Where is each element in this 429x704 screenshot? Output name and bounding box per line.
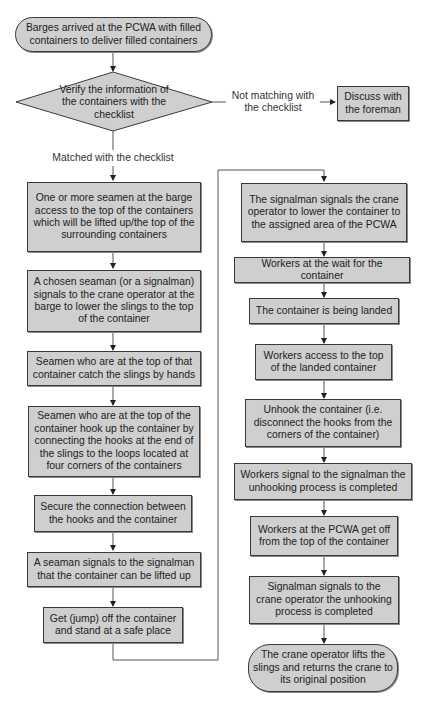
- branch-yes-label: Matched with the checklist: [40, 152, 186, 164]
- decision-text: Verify the information of the containers…: [55, 84, 173, 121]
- left-step-4: Seamen who are at the top of the contain…: [28, 406, 200, 477]
- left-step-6: A seaman signals to the signalman that t…: [27, 552, 201, 587]
- foreman-text: Discuss with the foreman: [342, 91, 404, 116]
- end-text: The crane operator lifts the slings and …: [253, 649, 393, 686]
- left-step-7: Get (jump) off the container and stand a…: [43, 607, 183, 643]
- right-step-7: Workers at the PCWA get off from the top…: [250, 516, 398, 556]
- right-step-4: Workers access to the top of the landed …: [255, 344, 392, 380]
- left-step-2: A chosen seaman (or a signalman) signals…: [27, 270, 201, 332]
- left-step-5: Secure the connection between the hooks …: [34, 495, 192, 532]
- foreman-box: Discuss with the foreman: [337, 86, 409, 121]
- start-terminal: Barges arrived at the PCWA with filled c…: [15, 17, 212, 52]
- right-step-5: Unhook the container (i.e. disconnect th…: [245, 399, 401, 447]
- right-step-6: Workers signal to the signalman the unho…: [234, 463, 412, 500]
- left-step-1: One or more seamen at the barge access t…: [27, 182, 201, 252]
- right-step-8: Signalman signals to the crane operator …: [249, 576, 399, 624]
- end-terminal: The crane operator lifts the slings and …: [248, 644, 398, 692]
- start-text: Barges arrived at the PCWA with filled c…: [20, 22, 207, 47]
- right-step-3: The container is being landed: [249, 298, 399, 324]
- branch-no-label: Not matching with the checklist: [226, 90, 320, 115]
- right-step-1: The signalman signals the crane operator…: [241, 183, 407, 242]
- right-step-2: Workers at the wait for the container: [234, 257, 410, 283]
- left-step-3: Seamen who are at the top of that contai…: [27, 351, 201, 386]
